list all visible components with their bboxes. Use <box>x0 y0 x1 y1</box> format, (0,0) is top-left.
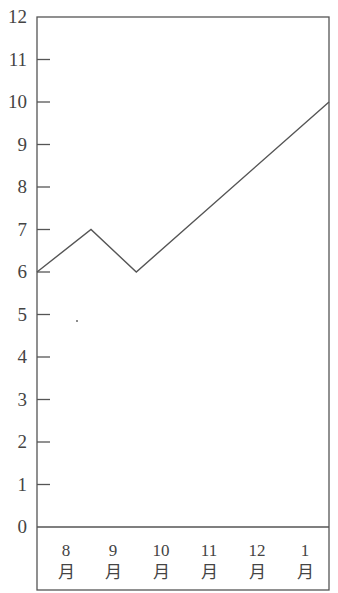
svg-text:10: 10 <box>153 541 170 560</box>
x-tick-label: 12月 <box>249 541 266 582</box>
svg-text:12: 12 <box>249 541 266 560</box>
y-tick-label: 9 <box>18 134 28 155</box>
svg-text:8: 8 <box>62 541 71 560</box>
y-tick-label: 10 <box>8 91 27 112</box>
svg-text:月: 月 <box>297 563 314 582</box>
svg-text:月: 月 <box>201 563 218 582</box>
svg-text:1: 1 <box>301 541 310 560</box>
y-tick-label: 5 <box>18 304 28 325</box>
stray-dot <box>76 320 78 322</box>
y-tick-label: 2 <box>18 431 28 452</box>
x-tick-label: 8月 <box>58 541 75 582</box>
y-tick-label: 7 <box>18 219 28 240</box>
svg-text:9: 9 <box>109 541 118 560</box>
y-tick-label: 12 <box>8 6 27 27</box>
svg-text:月: 月 <box>105 563 122 582</box>
x-tick-label: 10月 <box>153 541 170 582</box>
svg-text:11: 11 <box>201 541 217 560</box>
svg-text:月: 月 <box>58 563 75 582</box>
x-axis-labels: 8月9月10月11月12月1月 <box>58 541 314 582</box>
y-tick-label: 1 <box>18 474 28 495</box>
y-tick-label: 3 <box>18 389 28 410</box>
y-tick-label: 4 <box>18 346 28 367</box>
y-tick-label: 6 <box>18 261 28 282</box>
y-axis-ticks: 0123456789101112 <box>8 6 50 537</box>
x-tick-label: 9月 <box>105 541 122 582</box>
plot-frame <box>37 17 329 590</box>
y-tick-label: 0 <box>18 516 28 537</box>
svg-text:月: 月 <box>153 563 170 582</box>
x-tick-label: 1月 <box>297 541 314 582</box>
line-chart: 0123456789101112 8月9月10月11月12月1月 <box>0 0 338 593</box>
svg-text:月: 月 <box>249 563 266 582</box>
x-tick-label: 11月 <box>201 541 218 582</box>
y-tick-label: 8 <box>18 176 28 197</box>
y-tick-label: 11 <box>9 49 27 70</box>
data-line <box>37 102 329 272</box>
